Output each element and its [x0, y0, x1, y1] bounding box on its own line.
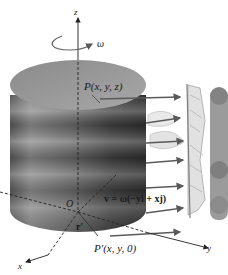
- projection-label: P′(x, y, 0): [94, 243, 136, 254]
- rotation-arrow-icon: [52, 36, 92, 50]
- y-axis-label: y: [207, 244, 211, 253]
- rotating-cylinder-diagram: z ω P(x, y, z) O v = ω(−yi + xj) r′ P′(x…: [0, 0, 228, 275]
- velocity-formula: v = ω(−yi + xj): [104, 194, 166, 204]
- z-axis-label: z: [74, 8, 78, 17]
- cylinder: [10, 60, 146, 232]
- x-axis: [26, 255, 48, 262]
- position-vector-label: r′: [76, 222, 83, 232]
- point-p-label: P(x, y, z): [84, 81, 122, 92]
- x-axis-label: x: [18, 262, 22, 271]
- y-axis: [145, 232, 208, 248]
- omega-label: ω: [97, 39, 104, 49]
- origin-label: O: [66, 199, 73, 209]
